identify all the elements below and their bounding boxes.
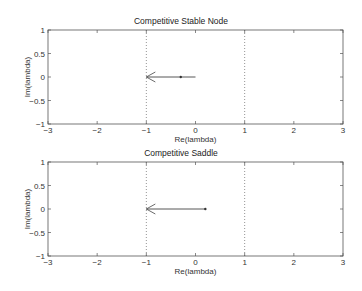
x-tick-label: 1 bbox=[242, 258, 247, 267]
x-axis-label: Re(lambda) bbox=[175, 135, 217, 144]
y-tick-label: −1 bbox=[36, 252, 46, 261]
y-tick-label: 0.5 bbox=[34, 50, 46, 59]
x-tick-label: −1 bbox=[142, 126, 152, 135]
y-axis-label: Im(lambda) bbox=[23, 188, 32, 229]
y-tick-label: −1 bbox=[36, 120, 46, 129]
y-tick-label: 0.5 bbox=[34, 182, 46, 191]
figure-canvas: −3−2−1012310.50−0.5−1Re(lambda)Im(lambda… bbox=[0, 0, 362, 291]
x-axis-label: Re(lambda) bbox=[175, 267, 217, 276]
y-tick-label: 1 bbox=[41, 158, 46, 167]
x-tick-label: 2 bbox=[292, 258, 297, 267]
x-tick-label: 1 bbox=[242, 126, 247, 135]
x-tick-label: 2 bbox=[292, 126, 297, 135]
y-axis-label: Im(lambda) bbox=[23, 56, 32, 97]
x-tick-label: 0 bbox=[193, 126, 198, 135]
x-tick-label: −2 bbox=[93, 126, 103, 135]
x-tick-label: 0 bbox=[193, 258, 198, 267]
x-tick-label: 3 bbox=[341, 258, 346, 267]
x-tick-label: −2 bbox=[93, 258, 103, 267]
eigenvalue-marker bbox=[204, 208, 206, 210]
y-tick-label: 0 bbox=[41, 205, 46, 214]
x-tick-label: 3 bbox=[341, 126, 346, 135]
y-tick-label: 0 bbox=[41, 73, 46, 82]
y-tick-label: 1 bbox=[41, 26, 46, 35]
x-tick-label: −1 bbox=[142, 258, 152, 267]
eigenvalue-marker bbox=[180, 76, 182, 78]
